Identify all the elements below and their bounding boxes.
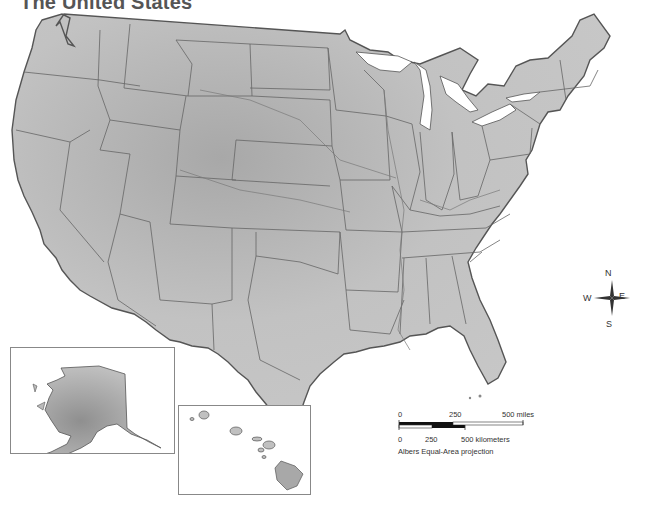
compass-east-label: E	[619, 291, 625, 301]
hawaii-shape	[179, 406, 310, 494]
projection-label: Albers Equal-Area projection	[398, 447, 493, 456]
scale-km-250: 250	[425, 435, 438, 444]
scale-miles-500: 500 miles	[502, 410, 534, 419]
alaska-shape	[11, 348, 174, 453]
scale-miles-250: 250	[449, 410, 462, 419]
scale-km-500: 500 kilometers	[461, 435, 510, 444]
compass-north-label: N	[605, 268, 612, 278]
scale-km-0: 0	[398, 435, 402, 444]
compass-south-label: S	[606, 319, 612, 329]
scale-miles-0: 0	[398, 410, 402, 419]
compass-west-label: W	[583, 293, 592, 303]
compass-rose-icon	[592, 278, 632, 318]
alaska-inset	[10, 347, 175, 454]
scale-bar-graphic	[395, 420, 535, 434]
hawaii-inset	[178, 405, 311, 495]
